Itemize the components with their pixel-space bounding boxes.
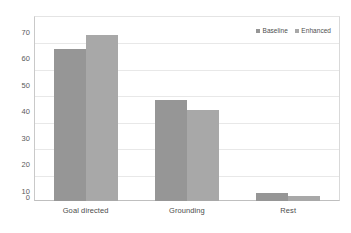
bar-baseline-rest[interactable] [256,193,288,201]
legend-swatch-icon [256,29,260,33]
y-axis-tick: 50 [4,82,30,90]
legend-label-baseline: Baseline [263,27,288,34]
legend-label-enhanced: Enhanced [301,27,331,34]
bar-enhanced-rest[interactable] [288,196,320,201]
bar-baseline-goal-directed[interactable] [54,49,86,202]
bar-group-rest [238,17,339,201]
y-axis-tick: 70 [4,29,30,37]
y-axis-tick: 40 [4,108,30,116]
y-axis: 70 60 50 40 30 20 10 0 [0,16,30,201]
x-axis: Goal directed Grounding Rest [35,206,339,222]
y-axis-tick: 0 [4,194,30,202]
x-axis-tick-goal-directed: Goal directed [35,206,136,216]
bar-baseline-grounding[interactable] [155,100,187,201]
bar-group-grounding [136,17,237,201]
legend: Baseline Enhanced [256,27,331,34]
y-axis-tick: 30 [4,135,30,143]
legend-item-enhanced[interactable]: Enhanced [295,27,331,34]
bar-enhanced-grounding[interactable] [187,110,219,201]
x-axis-tick-grounding: Grounding [136,206,237,216]
x-axis-tick-rest: Rest [238,206,339,216]
legend-item-baseline[interactable]: Baseline [256,27,288,34]
bar-enhanced-goal-directed[interactable] [86,35,118,201]
bar-chart: 70 60 50 40 30 20 10 0 Goal dire [0,0,351,233]
y-axis-tick: 20 [4,161,30,169]
bar-group-goal-directed [35,17,136,201]
bars-layer [35,17,339,201]
y-axis-tick: 60 [4,55,30,63]
legend-swatch-icon [295,29,299,33]
